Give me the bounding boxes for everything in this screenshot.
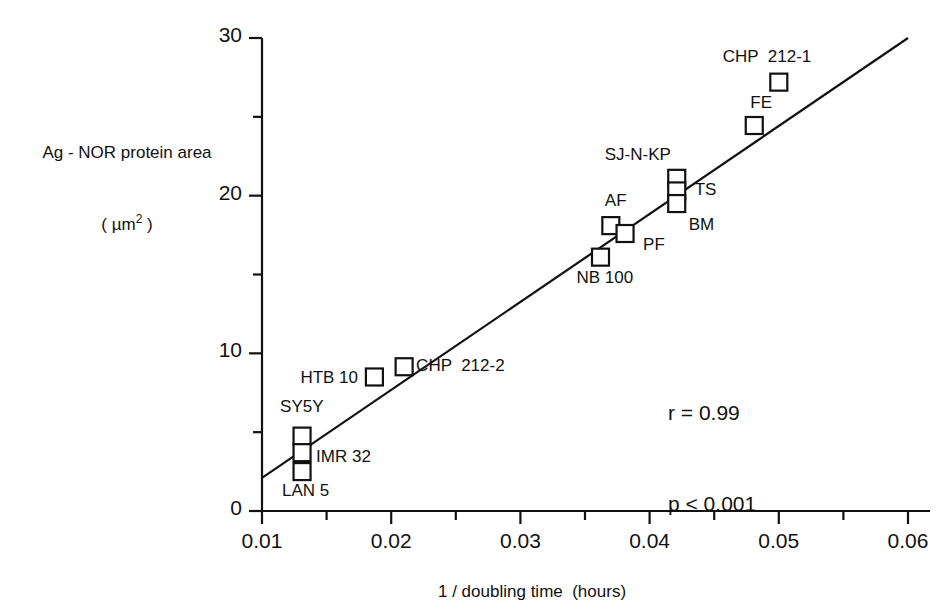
y-axis-title-line1: Ag - NOR protein area bbox=[14, 142, 240, 165]
data-point-label: AF bbox=[605, 191, 627, 211]
data-point-label: CHP 212-2 bbox=[416, 356, 505, 376]
regression-line bbox=[262, 38, 908, 478]
y-tick-label: 30 bbox=[174, 23, 242, 47]
y-tick-label: 10 bbox=[174, 338, 242, 362]
data-point-marker bbox=[617, 225, 634, 242]
data-point-label: LAN 5 bbox=[282, 481, 329, 501]
data-point-label: SJ-N-KP bbox=[605, 145, 671, 165]
y-axis-ticks bbox=[249, 38, 262, 511]
x-tick-label: 0.01 bbox=[232, 529, 292, 553]
data-point-label: HTB 10 bbox=[300, 368, 358, 388]
regression-line-path bbox=[262, 38, 908, 478]
data-point-label: CHP 212-1 bbox=[723, 47, 812, 67]
p-value-text: p < 0.001 bbox=[668, 489, 756, 519]
y-tick-label: 20 bbox=[174, 181, 242, 205]
x-tick-label: 0.03 bbox=[490, 529, 550, 553]
data-point-label: SY5Y bbox=[280, 397, 323, 417]
chart-figure: Ag - NOR protein area ( µm2 ) 1 / doubli… bbox=[0, 0, 946, 614]
x-axis-ticks bbox=[262, 511, 908, 524]
data-point-label: NB 100 bbox=[577, 268, 634, 288]
x-tick-label: 0.06 bbox=[878, 529, 938, 553]
data-point-marker bbox=[770, 74, 787, 91]
y-axis-title-line2: ( µm2 ) bbox=[14, 211, 240, 237]
data-point-label: FE bbox=[750, 93, 772, 113]
x-tick-label: 0.02 bbox=[361, 529, 421, 553]
y-tick-label: 0 bbox=[174, 496, 242, 520]
data-point-marker bbox=[294, 444, 311, 461]
x-axis-title: 1 / doubling time (hours) bbox=[438, 582, 626, 602]
data-point-marker bbox=[592, 249, 609, 266]
x-tick-label: 0.04 bbox=[620, 529, 680, 553]
data-point-marker bbox=[746, 117, 763, 134]
data-point-marker bbox=[396, 358, 413, 375]
y-axis-unit-pre: ( µm bbox=[101, 214, 135, 233]
data-point-marker bbox=[366, 368, 383, 385]
data-point-label: BM bbox=[689, 215, 715, 235]
data-point-marker bbox=[668, 195, 685, 212]
data-point-label: PF bbox=[643, 235, 665, 255]
data-point-marker bbox=[294, 463, 311, 480]
y-axis-unit-post: ) bbox=[142, 214, 152, 233]
data-point-marker bbox=[294, 428, 311, 445]
correlation-coefficient-text: r = 0.99 bbox=[668, 398, 756, 428]
data-point-label: IMR 32 bbox=[316, 447, 371, 467]
statistics-annotation: r = 0.99 p < 0.001 bbox=[668, 337, 756, 581]
data-point-label: TS bbox=[695, 180, 717, 200]
chart-canvas bbox=[0, 0, 946, 614]
x-tick-label: 0.05 bbox=[749, 529, 809, 553]
